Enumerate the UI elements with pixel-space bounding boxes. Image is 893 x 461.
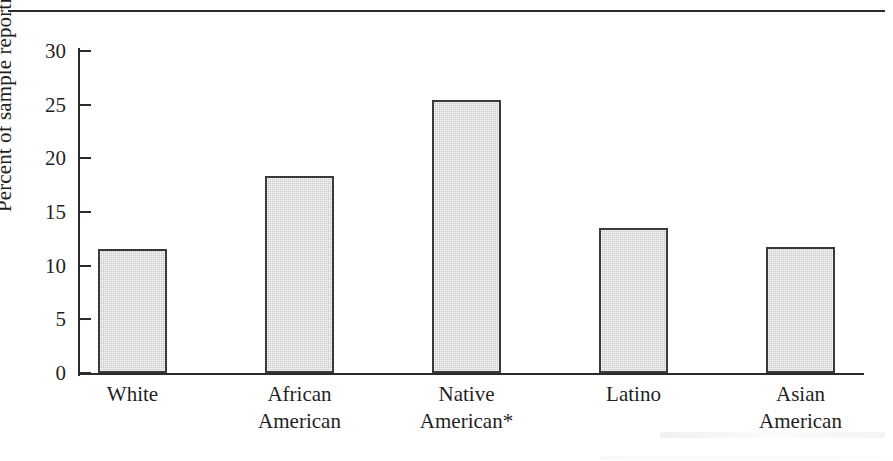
bar	[766, 247, 835, 373]
bar	[265, 176, 334, 373]
category-label-line2: American	[711, 408, 891, 435]
scan-artifact	[660, 432, 885, 438]
x-axis-category-label: AfricanAmerican	[210, 381, 390, 435]
y-axis-tick-mark	[80, 50, 91, 52]
y-axis-tick: 0	[78, 372, 91, 374]
y-axis-tick-label: 25	[45, 94, 66, 115]
y-axis-tick-label: 30	[45, 41, 66, 62]
category-label-line1: White	[107, 382, 158, 406]
y-axis-title: Percent of sample reporting	[0, 0, 17, 212]
category-label-line1: Asian	[776, 382, 825, 406]
x-axis-category-label: AsianAmerican	[711, 381, 891, 435]
y-axis-tick-label: 15	[45, 202, 66, 223]
y-axis-tick: 15	[78, 211, 91, 213]
y-axis-tick-mark	[80, 318, 91, 320]
category-label-line1: Latino	[606, 382, 661, 406]
y-axis-tick: 20	[78, 157, 91, 159]
y-axis-tick: 5	[78, 318, 91, 320]
y-axis-tick: 25	[78, 104, 91, 106]
bar	[599, 228, 668, 373]
y-axis-tick-label: 20	[45, 148, 66, 169]
y-axis-tick-mark	[80, 157, 91, 159]
y-axis-tick: 30	[78, 50, 91, 52]
category-label-line1: Native	[439, 382, 495, 406]
scan-artifact-secondary	[600, 456, 890, 460]
top-horizontal-rule	[8, 10, 885, 12]
category-label-line2: American	[210, 408, 390, 435]
y-axis-tick: 10	[78, 265, 91, 267]
bar	[98, 249, 167, 374]
figure-bar-chart: Percent of sample reporting 051015202530…	[0, 0, 893, 461]
x-axis-category-label: Latino	[544, 381, 724, 408]
y-axis-tick-mark	[80, 211, 91, 213]
category-label-line1: African	[267, 382, 331, 406]
y-axis-tick-label: 10	[45, 255, 66, 276]
bar	[432, 100, 501, 373]
y-axis-tick-label: 5	[56, 309, 67, 330]
y-axis-tick-mark	[80, 104, 91, 106]
x-axis-category-label: White	[43, 381, 223, 408]
plot-area: 051015202530	[78, 51, 864, 373]
x-axis-category-label: NativeAmerican*	[377, 381, 557, 435]
y-axis-tick-mark	[80, 372, 91, 374]
y-axis-tick-mark	[80, 265, 91, 267]
category-label-line2: American*	[377, 408, 557, 435]
x-axis-line	[78, 373, 864, 375]
